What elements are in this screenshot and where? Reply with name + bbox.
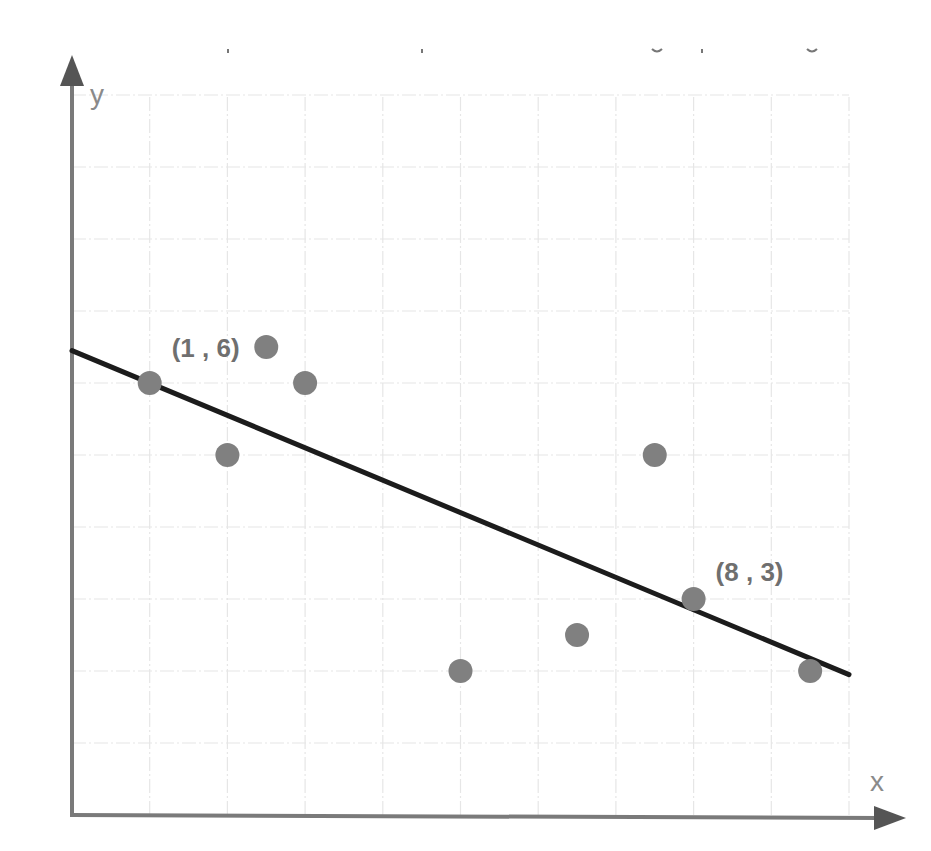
- point-label: (1 , 6): [172, 333, 240, 363]
- x-axis: [70, 815, 880, 818]
- scatter-plot: y x (1 , 6)(8 , 3): [0, 0, 931, 851]
- data-point: [682, 587, 706, 611]
- data-point: [215, 443, 239, 467]
- point-label: (8 , 3): [716, 557, 784, 587]
- y-axis-arrow-icon: [60, 55, 84, 86]
- y-axis-label: y: [90, 79, 104, 110]
- data-point: [449, 659, 473, 683]
- data-point: [254, 335, 278, 359]
- x-axis-arrow-icon: [874, 806, 906, 830]
- data-point: [643, 443, 667, 467]
- data-point: [565, 623, 589, 647]
- data-points: [138, 335, 822, 683]
- axes: y x: [60, 55, 906, 830]
- point-annotations: (1 , 6)(8 , 3): [172, 333, 784, 587]
- grid: [72, 95, 849, 815]
- x-axis-label: x: [870, 766, 884, 797]
- data-point: [293, 371, 317, 395]
- data-point: [798, 659, 822, 683]
- data-point: [138, 371, 162, 395]
- cropped-title-remnants: [227, 49, 817, 53]
